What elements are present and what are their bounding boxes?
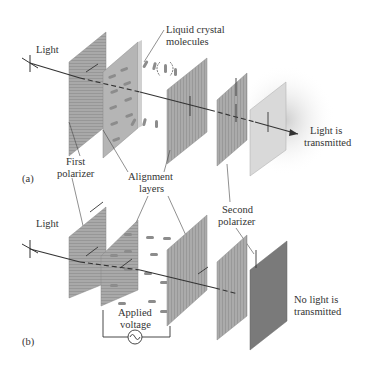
first-polarizer-b: [69, 207, 106, 298]
second-polarizer-b: [217, 235, 247, 340]
alignment-label-line2: layers: [139, 183, 164, 194]
result-label-a-line2: transmitted: [304, 137, 352, 148]
result-label-b-line2: transmitted: [294, 306, 342, 317]
second-polarizer-a: [217, 73, 247, 166]
alignment-layer-a1: [103, 42, 138, 158]
result-label-b-line1: No light is: [294, 294, 338, 305]
first-polarizer-label-line2: polarizer: [57, 168, 95, 179]
alignment-layer-b1: [101, 220, 138, 306]
result-label-a-line1: Light is: [310, 125, 342, 136]
panel-b-id: (b): [22, 336, 35, 348]
lcd-diagram: Light Liquid crystal molecules Light is …: [0, 0, 369, 370]
light-label-a: Light: [36, 44, 59, 55]
alignment-layer-a2: [167, 58, 207, 164]
light-label-b: Light: [36, 218, 59, 229]
panel-a: [22, 32, 335, 176]
second-polarizer-label-line1: Second: [222, 204, 254, 215]
lc-label-line2: molecules: [166, 36, 209, 47]
second-polarizer-label-line2: polarizer: [218, 216, 256, 227]
voltage-label-line1: Applied: [118, 307, 153, 318]
voltage-label-line2: voltage: [120, 319, 151, 330]
alignment-label-line1: Alignment: [128, 171, 173, 182]
first-polarizer-a: [69, 32, 106, 156]
alignment-layer-b2: [167, 215, 207, 326]
first-polarizer-label-line1: First: [66, 156, 85, 167]
panel-a-id: (a): [22, 173, 34, 185]
lc-label-line1: Liquid crystal: [166, 24, 225, 35]
